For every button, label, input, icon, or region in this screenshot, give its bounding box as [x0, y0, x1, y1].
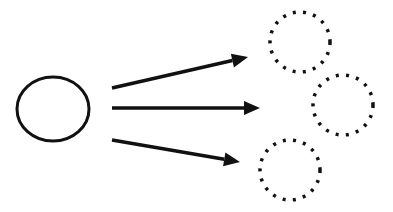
dotted-circle-1	[270, 12, 330, 72]
target-circle-group	[260, 12, 373, 200]
arrowhead-icon	[244, 101, 260, 115]
source-circle	[17, 77, 89, 141]
dotted-circle-3	[260, 140, 320, 200]
source-circle-group	[17, 77, 89, 141]
dotted-circle-2	[313, 75, 373, 135]
arrow-group	[112, 54, 260, 166]
arrow-shaft	[112, 140, 224, 159]
arrow-3	[112, 140, 240, 166]
arrowhead-icon	[223, 152, 240, 166]
arrow-1	[112, 54, 248, 88]
arrowhead-icon	[231, 54, 248, 68]
arrow-shaft	[112, 61, 232, 88]
arrow-2	[112, 101, 260, 115]
diagram-canvas	[0, 0, 393, 212]
